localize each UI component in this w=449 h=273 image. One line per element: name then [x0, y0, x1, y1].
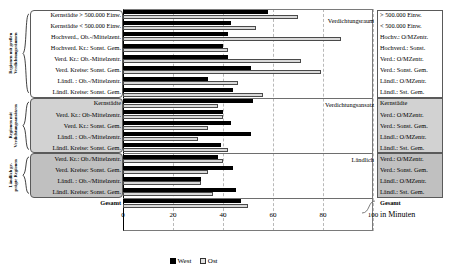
row-label-right: Ländl.: Sst. Gem. — [380, 88, 424, 95]
row-label-right: Verd.: Sonst. Gem. — [380, 122, 428, 129]
bar-west — [123, 77, 208, 81]
row-label-right: Ländl.: O/MZentr. — [380, 77, 426, 84]
bar-west — [123, 32, 228, 36]
row-label: Ländl. : Ob.-/Mittelzentr. — [58, 177, 121, 184]
row-label-right: > 500.000 Einw. — [380, 11, 422, 18]
bar-ost — [123, 15, 298, 19]
chart-root: Kernstädte > 500.000 Einw.> 500.000 Einw… — [0, 0, 449, 273]
bar-west — [123, 188, 236, 192]
row-label: Hochverd. Kr.: Sonst. Gem. — [51, 44, 121, 51]
bar-ost — [123, 48, 228, 52]
row-label: Verd. Kreise: Sonst. Gem. — [55, 66, 121, 73]
group-annotation: Verdichtungsansatz — [325, 101, 374, 108]
gridline-100 — [373, 9, 374, 231]
bar-west — [123, 55, 228, 59]
bar-west — [123, 132, 251, 136]
curly-brace-icon — [22, 156, 30, 194]
row-label: Verd. Kr.: Ob-Mittelzentr. — [56, 111, 121, 118]
axis-tick-80: 80 — [311, 211, 335, 219]
bar-west — [123, 177, 201, 181]
legend-item-west: West — [170, 257, 191, 265]
row-label: Ländl. Kreise: Sonst. Gem. — [52, 88, 121, 95]
row-label: Gesamt — [100, 199, 121, 206]
bar-ost — [123, 93, 263, 97]
bar-west — [123, 66, 251, 70]
bar-west — [123, 166, 233, 170]
legend-label-ost: Ost — [208, 257, 218, 265]
bar-ost — [123, 104, 218, 108]
bar-west — [123, 121, 231, 125]
legend-swatch-ost — [200, 258, 206, 264]
bar-ost — [123, 126, 208, 130]
row-label: Verd. Kreise: Sonst. Gem. — [55, 166, 121, 173]
row-label-right: Verd.: O/MZentr. — [380, 111, 424, 118]
bar-west — [123, 88, 233, 92]
axis-unit-label: in Minuten — [380, 210, 415, 219]
row-label-right: Ländl.: O/MZentr. — [380, 133, 426, 140]
row-label-right: Ländl.: Sst. Gem. — [380, 188, 424, 195]
bar-ost — [123, 37, 341, 41]
row-label: Ländl. : Ob.-/Mittelzentr. — [58, 133, 121, 140]
bar-ost — [123, 70, 321, 74]
bar-west — [123, 99, 253, 103]
group-brace-caption-3: Ländlich ge- prägte Regionen — [8, 156, 22, 194]
bar-west — [123, 199, 241, 203]
bar-ost — [123, 204, 248, 208]
legend-swatch-west — [170, 258, 176, 264]
bar-ost — [123, 159, 223, 163]
axis-tick-40: 40 — [211, 211, 235, 219]
row-label-right: Verd.: Sonst. Gem. — [380, 166, 428, 173]
bar-west — [123, 44, 223, 48]
bar-west — [123, 10, 268, 14]
bar-west — [123, 21, 231, 25]
row-label-right: Verd.: Sonst. Gem. — [380, 66, 428, 73]
bar-west — [123, 110, 223, 114]
row-label: Ländl. : Ob.-/Mittelzentr. — [58, 77, 121, 84]
bar-ost — [123, 59, 301, 63]
row-label: Verd. Kr.: Ob.-Mittelzentr. — [54, 55, 121, 62]
group-annotation: Verdichtungsraum — [328, 17, 374, 24]
axis-tick-20: 20 — [161, 211, 185, 219]
row-label-right: < 500.000 Einw. — [380, 22, 422, 29]
bar-west — [123, 143, 221, 147]
group-brace-caption-1: Regionen mit großen Verdichtungsräumen — [8, 13, 22, 94]
bar-west — [123, 155, 218, 159]
chart-legend: WestOst — [170, 257, 224, 265]
row-label-right: Ländl.: Sst. Gem. — [380, 144, 424, 151]
legend-label-west: West — [178, 257, 192, 265]
row-label-right: Gesamt — [380, 199, 401, 206]
row-label: Verd. Kr.: Sonst. Gem. — [64, 122, 121, 129]
bar-ost — [123, 192, 213, 196]
curly-brace-icon — [22, 13, 30, 94]
row-label: Kernstädte — [94, 99, 121, 106]
bar-ost — [123, 148, 228, 152]
bar-ost — [123, 26, 256, 30]
legend-item-ost: Ost — [200, 257, 217, 265]
row-label: Kernstädte > 500.000 Einw. — [51, 11, 121, 18]
row-label: Hochverd., Ob.-/Mittelzent. — [51, 33, 121, 40]
axis-tick-0: 0 — [111, 211, 135, 219]
bar-ost — [123, 137, 198, 141]
row-label-right: Verd.: O/MZentr. — [380, 155, 424, 162]
row-label-right: Kernstädte — [380, 99, 407, 106]
row-label: Ländl. Kreise: Sonst. Gem. — [52, 144, 121, 151]
bar-ost — [123, 170, 208, 174]
row-label-right: Hochverd.: Sonst. — [380, 44, 425, 51]
bar-ost — [123, 115, 223, 119]
row-label: Kernstädte < 500.000 Einw. — [51, 22, 121, 29]
bar-ost — [123, 81, 238, 85]
row-label-right: Verd.: O/MZentr. — [380, 55, 424, 62]
curly-brace-icon — [22, 101, 30, 151]
row-label-right: Ländl.: O/MZentr. — [380, 177, 426, 184]
bar-ost — [123, 181, 201, 185]
axis-tick-60: 60 — [261, 211, 285, 219]
group-annotation: Ländlich — [352, 156, 374, 163]
row-label-right: Hochv.: O/MZentr. — [380, 33, 428, 40]
row-label: Ländl. Kreise: Sonst. Gem. — [52, 188, 121, 195]
group-brace-caption-2: Regionen mit Verdichtungsansätzen — [8, 101, 22, 151]
row-label: Verd. Kr.: Ob./Mittelzentr. — [55, 155, 121, 162]
